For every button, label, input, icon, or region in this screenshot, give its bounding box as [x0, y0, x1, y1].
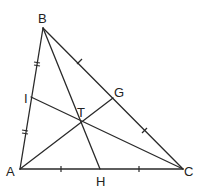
label-H: H: [96, 174, 105, 188]
cevian-BH: [43, 28, 100, 169]
label-A: A: [6, 164, 15, 179]
label-T: T: [77, 105, 85, 120]
label-G: G: [114, 85, 124, 100]
label-I: I: [24, 91, 28, 106]
label-B: B: [38, 11, 47, 26]
tick-mark-IA: [22, 130, 28, 134]
label-C: C: [184, 164, 193, 179]
triangle-diagram: B A C H G I T: [0, 0, 200, 188]
cevian-CI: [31, 97, 183, 169]
tick-mark-BG: [77, 59, 82, 64]
cevian-AG: [20, 98, 113, 169]
